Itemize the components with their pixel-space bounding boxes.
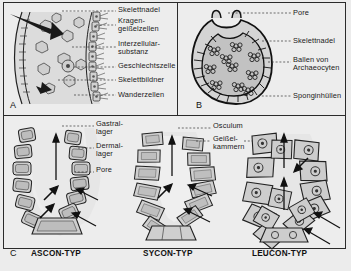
label-dermallager: Dermal- lager [96,142,123,159]
label-ballen-von-archaeocyten: Ballen von Archaeocyten [293,56,339,73]
type-label-ascon: ASCON-TYP [31,249,81,258]
label-pore-b: Pore [293,9,309,17]
label-geschlechtszelle: Geschlechtszelle [118,62,175,70]
vertical-divider [177,3,178,115]
label-skelettnadel-a: Skelettnadel [118,6,160,14]
label-pore-c: Pore [96,166,112,174]
panel-a-letter: A [10,100,16,110]
label-wanderzellen: Wanderzellen [118,91,164,99]
label-geisselkammern: Geißel- kammern [213,135,245,152]
panel-b-letter: B [196,100,202,110]
type-label-leucon: LEUCON-TYP [252,249,307,258]
label-gastrallager: Gastral- lager [96,120,123,137]
label-skelettnadel-b: Skelettnadel [293,37,335,45]
label-kragengeisselzellen: Kragen- geißelzellen [118,17,159,34]
label-osculum: Osculum [213,122,243,130]
figure-sponge-anatomy: A Skelettnadel Kragen- geißelzellen Inte… [0,0,351,271]
horizontal-divider [4,115,345,116]
label-interzellularsubstanz: Interzellular- substanz [118,40,160,57]
panel-c-letter: C [10,248,17,258]
label-sponginhuellen: Sponginhüllen [293,92,341,100]
type-label-sycon: SYCON-TYP [143,249,193,258]
label-skelettbildner: Skelettbildner [118,76,164,84]
